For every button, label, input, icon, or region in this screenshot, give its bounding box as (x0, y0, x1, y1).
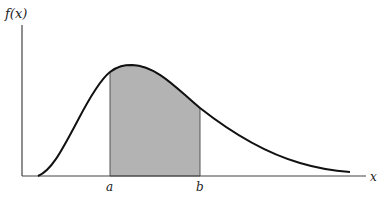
density-diagram: f(x) x a b (0, 0, 387, 197)
lower-bound-label: a (106, 180, 113, 194)
shaded-area-a-to-b (110, 65, 200, 176)
x-axis-label: x (370, 170, 377, 184)
upper-bound-label: b (196, 180, 204, 194)
y-axis-label: f(x) (4, 6, 27, 21)
